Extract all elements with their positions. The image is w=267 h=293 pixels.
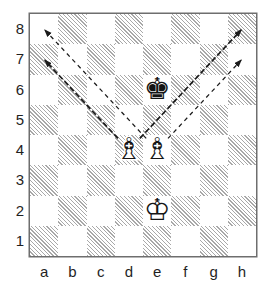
file-label-a: a xyxy=(30,260,58,282)
rank-label-1: 1 xyxy=(0,226,24,256)
square-f3 xyxy=(171,165,199,195)
square-d5 xyxy=(115,105,143,135)
square-c7 xyxy=(87,44,115,74)
square-b2 xyxy=(58,196,86,226)
square-g7 xyxy=(200,44,228,74)
square-b5 xyxy=(58,105,86,135)
square-e1 xyxy=(143,226,171,256)
square-e3 xyxy=(143,165,171,195)
rank-label-5: 5 xyxy=(0,105,24,135)
square-h3 xyxy=(228,165,256,195)
rank-label-2: 2 xyxy=(0,196,24,226)
square-a7 xyxy=(30,44,58,74)
chess-board: ♚♚♝♗♝♗♚♔ xyxy=(30,14,256,256)
file-label-g: g xyxy=(200,260,228,282)
square-b6 xyxy=(58,75,86,105)
square-f6 xyxy=(171,75,199,105)
square-c2 xyxy=(87,196,115,226)
square-g8 xyxy=(200,14,228,44)
square-a6 xyxy=(30,75,58,105)
rank-label-8: 8 xyxy=(0,14,24,44)
rank-label-4: 4 xyxy=(0,135,24,165)
square-f1 xyxy=(171,226,199,256)
square-b8 xyxy=(58,14,86,44)
rank-labels: 87654321 xyxy=(0,14,26,256)
square-e8 xyxy=(143,14,171,44)
square-f7 xyxy=(171,44,199,74)
square-c3 xyxy=(87,165,115,195)
square-d3 xyxy=(115,165,143,195)
chess-diagram: 87654321 ♚♚♝♗♝♗♚♔ abcdefgh xyxy=(0,0,267,293)
square-f2 xyxy=(171,196,199,226)
square-h6 xyxy=(228,75,256,105)
rank-label-7: 7 xyxy=(0,44,24,74)
square-a8 xyxy=(30,14,58,44)
square-g6 xyxy=(200,75,228,105)
square-g1 xyxy=(200,226,228,256)
square-a2 xyxy=(30,196,58,226)
file-label-c: c xyxy=(87,260,115,282)
square-h7 xyxy=(228,44,256,74)
square-e4 xyxy=(143,135,171,165)
square-c4 xyxy=(87,135,115,165)
square-c8 xyxy=(87,14,115,44)
square-d1 xyxy=(115,226,143,256)
square-h2 xyxy=(228,196,256,226)
square-d2 xyxy=(115,196,143,226)
square-c1 xyxy=(87,226,115,256)
square-d6 xyxy=(115,75,143,105)
file-label-e: e xyxy=(143,260,171,282)
square-f8 xyxy=(171,14,199,44)
file-label-b: b xyxy=(58,260,86,282)
square-g5 xyxy=(200,105,228,135)
square-e2 xyxy=(143,196,171,226)
square-a3 xyxy=(30,165,58,195)
square-h8 xyxy=(228,14,256,44)
square-b1 xyxy=(58,226,86,256)
file-label-h: h xyxy=(228,260,256,282)
square-g4 xyxy=(200,135,228,165)
rank-label-6: 6 xyxy=(0,75,24,105)
square-d4 xyxy=(115,135,143,165)
square-h1 xyxy=(228,226,256,256)
file-label-f: f xyxy=(171,260,199,282)
square-f4 xyxy=(171,135,199,165)
square-b7 xyxy=(58,44,86,74)
square-a4 xyxy=(30,135,58,165)
square-h4 xyxy=(228,135,256,165)
square-c5 xyxy=(87,105,115,135)
square-g2 xyxy=(200,196,228,226)
square-e7 xyxy=(143,44,171,74)
square-b3 xyxy=(58,165,86,195)
square-g3 xyxy=(200,165,228,195)
square-e6 xyxy=(143,75,171,105)
square-d7 xyxy=(115,44,143,74)
square-d8 xyxy=(115,14,143,44)
file-labels: abcdefgh xyxy=(30,260,256,282)
square-h5 xyxy=(228,105,256,135)
square-b4 xyxy=(58,135,86,165)
rank-label-3: 3 xyxy=(0,165,24,195)
file-label-d: d xyxy=(115,260,143,282)
square-e5 xyxy=(143,105,171,135)
square-f5 xyxy=(171,105,199,135)
square-a5 xyxy=(30,105,58,135)
square-c6 xyxy=(87,75,115,105)
square-a1 xyxy=(30,226,58,256)
